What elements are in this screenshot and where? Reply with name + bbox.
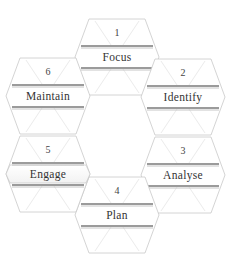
step-label: Maintain: [26, 90, 70, 102]
hexagon-step-engage: 5Engage: [6, 136, 90, 212]
step-label: Analyse: [163, 169, 203, 182]
step-number: 4: [115, 185, 120, 196]
step-number: 2: [181, 67, 186, 78]
step-label: Engage: [30, 168, 66, 181]
hexagon-step-identify: 2Identify: [141, 59, 225, 135]
hexagon-cycle-diagram: 1Focus2Identify3Analyse4Plan5Engage6Main…: [0, 0, 235, 263]
step-number: 3: [181, 145, 186, 156]
step-number: 5: [46, 144, 51, 155]
step-number: 1: [115, 27, 120, 38]
step-label: Focus: [103, 51, 132, 63]
step-number: 6: [46, 66, 51, 77]
hexagon-step-maintain: 6Maintain: [6, 58, 90, 134]
hexagon-step-plan: 4Plan: [75, 177, 159, 253]
step-label: Identify: [164, 91, 203, 104]
step-label: Plan: [106, 209, 128, 221]
